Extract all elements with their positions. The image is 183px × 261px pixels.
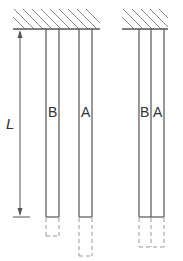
bars-joined-right <box>139 29 164 217</box>
dimension-L <box>13 30 30 217</box>
bar-b-right-label: B <box>140 104 149 120</box>
bar-a-left-label: A <box>81 104 91 120</box>
dimension-label: L <box>6 115 14 132</box>
bar-b-left-elongation <box>46 218 59 236</box>
bar-b-left-label: B <box>48 104 57 120</box>
bar-a-right-label: A <box>153 104 163 120</box>
bars-joined-right-elongation <box>139 218 164 247</box>
bar-b-left <box>46 29 59 217</box>
bar-a-left-elongation <box>79 218 92 256</box>
bar-diagram: L B A B A <box>0 0 183 261</box>
bar-a-left <box>79 29 92 217</box>
fixed-support-right <box>114 9 179 29</box>
fixed-support-left <box>5 9 106 29</box>
